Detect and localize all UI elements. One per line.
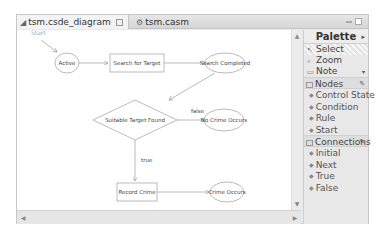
item-label: Initial: [316, 148, 341, 158]
palette-tool-zoom[interactable]: ⌕Zoom: [304, 55, 368, 66]
node-active[interactable]: Active: [55, 53, 79, 73]
node-no-crime-occurs[interactable]: No Crime Occurs: [201, 109, 247, 131]
diagram-canvas[interactable]: Start Active Search for Target Search Co…: [17, 30, 291, 210]
palette-drawer-connections[interactable]: Connections ✎: [304, 135, 368, 147]
node-search-label: Search for Target: [114, 60, 162, 67]
start-label: Start: [31, 30, 46, 36]
item-label: Rule: [316, 113, 336, 123]
palette-title: Palette: [316, 31, 356, 42]
editor-tab-bar: ◢tsm.csde_diagram ⚙tsm.casm: [17, 15, 368, 29]
pin-icon[interactable]: ✎: [359, 136, 365, 148]
close-icon[interactable]: [116, 19, 123, 26]
scroll-left-icon[interactable]: ◀: [19, 214, 27, 222]
palette-item-control-state[interactable]: ◆Control State: [304, 89, 368, 101]
node-nocrime-label: No Crime Occurs: [201, 117, 247, 123]
folder-icon: [306, 140, 313, 146]
tab-label: tsm.csde_diagram: [28, 17, 111, 27]
item-label: False: [316, 183, 339, 193]
vertical-scrollbar[interactable]: ▲ ▼: [291, 30, 301, 210]
tab-casm[interactable]: ⚙tsm.casm: [133, 15, 213, 29]
item-label: True: [316, 171, 335, 181]
palette-drawer-nodes[interactable]: Nodes ✎: [304, 77, 368, 89]
palette-item-initial[interactable]: ◆Initial: [304, 147, 368, 159]
node-suitable-target-found[interactable]: Suitable Target Found: [93, 100, 177, 140]
node-search-completed[interactable]: Search Completed: [200, 53, 251, 73]
palette-item-rule[interactable]: ◆Rule: [304, 112, 368, 124]
horizontal-scrollbar[interactable]: ◀ ▶: [17, 210, 301, 224]
pin-icon[interactable]: ✎: [359, 78, 365, 90]
palette-tool-note[interactable]: ▭Note ▾: [304, 66, 368, 77]
scroll-down-icon[interactable]: ▼: [293, 200, 301, 208]
edge-completed-suitable: [169, 73, 215, 100]
model-icon: ⚙: [136, 16, 143, 30]
palette-item-condition[interactable]: ◆Condition: [304, 101, 368, 113]
palette-item-true[interactable]: ◆True: [304, 170, 368, 182]
tool-label: Zoom: [316, 55, 342, 65]
tool-label: Note: [316, 66, 337, 76]
palette-item-false[interactable]: ◆False: [304, 182, 368, 194]
maximize-button[interactable]: [355, 18, 362, 25]
item-label: Next: [316, 160, 337, 170]
window-controls: [346, 17, 364, 26]
node-crime-occurs[interactable]: Crime Occurs: [208, 182, 245, 202]
node-icon: ◆: [309, 89, 314, 101]
scroll-up-icon[interactable]: ▲: [293, 32, 301, 40]
tool-label: Select: [316, 44, 344, 54]
item-label: Start: [316, 125, 338, 135]
node-record-label: Record Crime: [118, 189, 156, 195]
minimize-button[interactable]: [346, 21, 352, 23]
drawer-label: Nodes: [315, 79, 343, 89]
palette-header[interactable]: Palette ▸: [304, 30, 368, 44]
tab-label: tsm.casm: [145, 17, 189, 27]
edge-true-label: true: [141, 157, 153, 163]
node-icon: ◆: [309, 112, 314, 124]
node-search-for-target[interactable]: Search for Target: [110, 54, 164, 72]
scroll-right-icon[interactable]: ▶: [291, 214, 299, 222]
edge-false-label: false: [191, 108, 205, 114]
palette-item-start[interactable]: ◆Start: [304, 124, 368, 136]
item-label: Control State: [316, 90, 375, 100]
folder-icon: [306, 82, 313, 88]
palette-tool-select[interactable]: ↖Select: [304, 44, 368, 55]
node-icon: ◆: [309, 101, 314, 113]
palette-menu-icon[interactable]: ▸: [361, 30, 365, 44]
connection-icon: ◆: [309, 147, 314, 159]
node-record-crime[interactable]: Record Crime: [117, 183, 157, 201]
node-crime-label: Crime Occurs: [208, 189, 245, 195]
palette-panel: Palette ▸ ↖Select ⌕Zoom ▭Note ▾ Nodes ✎ …: [303, 30, 368, 224]
connection-icon: ◆: [309, 170, 314, 182]
diagram-svg: Start Active Search for Target Search Co…: [17, 30, 291, 210]
node-suitable-label: Suitable Target Found: [105, 117, 165, 124]
edge-start-active: [41, 40, 57, 52]
node-active-label: Active: [58, 60, 76, 66]
node-icon: ◆: [309, 124, 314, 136]
node-completed-label: Search Completed: [200, 60, 251, 67]
connection-icon: ◆: [309, 159, 314, 171]
item-label: Condition: [316, 102, 359, 112]
chevron-down-icon[interactable]: ▾: [362, 66, 365, 77]
palette-item-next[interactable]: ◆Next: [304, 159, 368, 171]
editor-window: ◢tsm.csde_diagram ⚙tsm.casm Start Active: [16, 14, 369, 224]
diagram-icon: ◢: [20, 16, 26, 30]
connection-icon: ◆: [309, 182, 314, 194]
tab-csde-diagram[interactable]: ◢tsm.csde_diagram: [17, 15, 129, 29]
